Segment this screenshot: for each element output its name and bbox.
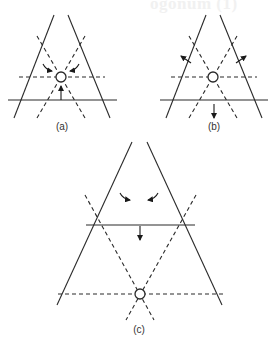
node-circle [135, 289, 145, 299]
arrow-inward-right-icon [70, 64, 79, 71]
figure-label-a: (a) [56, 121, 68, 132]
triangle-left-edge [57, 142, 132, 305]
arrow-inward-right-icon [148, 193, 158, 200]
figure-b: (b) [160, 15, 268, 132]
arrow-inward-left-icon [43, 64, 52, 71]
diagram-canvas: (a) (b) (c) [0, 0, 279, 346]
dashed-diagonal-left [85, 195, 154, 320]
triangle-right-edge [220, 15, 262, 118]
triangle-right-edge [68, 15, 110, 118]
dashed-diagonal-right [126, 195, 196, 320]
triangle-left-edge [14, 15, 54, 118]
node-circle [56, 72, 66, 82]
node-circle [208, 72, 218, 82]
arrow-inward-left-icon [120, 193, 130, 200]
figure-a: (a) [8, 15, 117, 132]
figure-c: (c) [57, 142, 225, 335]
figure-label-c: (c) [133, 324, 145, 335]
figure-label-b: (b) [208, 121, 220, 132]
triangle-left-edge [166, 15, 206, 118]
triangle-right-edge [147, 142, 222, 305]
